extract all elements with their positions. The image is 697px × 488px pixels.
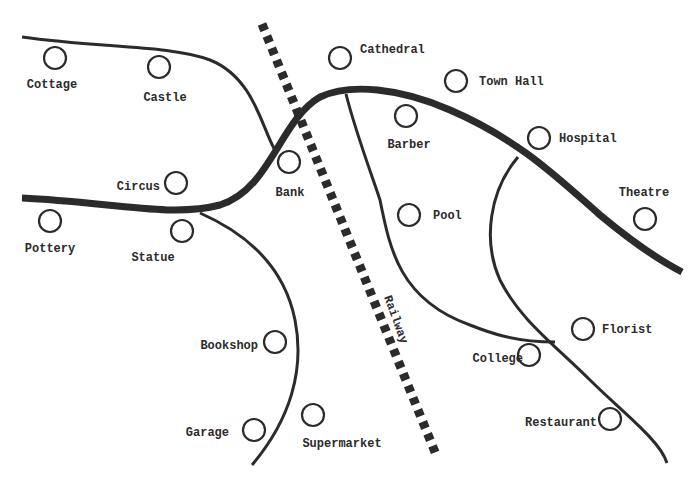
roads xyxy=(22,37,682,465)
place-label: Pottery xyxy=(25,242,75,256)
place-garage[interactable]: Garage xyxy=(186,419,265,441)
place-label: Pool xyxy=(433,209,462,223)
place-cottage[interactable]: Cottage xyxy=(27,47,77,92)
place-marker-icon[interactable] xyxy=(39,210,61,232)
place-marker-icon[interactable] xyxy=(165,172,187,194)
place-label: Cathedral xyxy=(360,43,425,57)
place-label: Town Hall xyxy=(479,75,544,89)
place-marker-icon[interactable] xyxy=(398,204,420,226)
place-theatre[interactable]: Theatre xyxy=(619,186,669,230)
place-label: Hospital xyxy=(559,132,617,146)
place-bank[interactable]: Bank xyxy=(276,151,305,200)
place-barber[interactable]: Barber xyxy=(387,105,430,152)
place-marker-icon[interactable] xyxy=(264,331,286,353)
place-circus[interactable]: Circus xyxy=(117,172,187,194)
place-marker-icon[interactable] xyxy=(572,318,594,340)
place-label: Barber xyxy=(387,138,430,152)
place-label: Florist xyxy=(602,323,652,337)
place-castle[interactable]: Castle xyxy=(143,56,186,105)
place-marker-icon[interactable] xyxy=(171,220,193,242)
place-marker-icon[interactable] xyxy=(243,419,265,441)
place-marker-icon[interactable] xyxy=(634,208,656,230)
place-label: Circus xyxy=(117,180,160,194)
place-bookshop[interactable]: Bookshop xyxy=(200,331,286,353)
place-label: Statue xyxy=(131,251,174,265)
place-marker-icon[interactable] xyxy=(278,151,300,173)
place-label: Cottage xyxy=(27,78,77,92)
place-cathedral[interactable]: Cathedral xyxy=(329,43,425,69)
place-marker-icon[interactable] xyxy=(528,127,550,149)
place-marker-icon[interactable] xyxy=(599,408,621,430)
place-florist[interactable]: Florist xyxy=(572,318,652,340)
place-supermarket[interactable]: Supermarket xyxy=(302,404,382,451)
railway-label: Railway xyxy=(380,294,410,346)
place-label: College xyxy=(473,352,523,366)
place-label: Bank xyxy=(276,186,305,200)
place-marker-icon[interactable] xyxy=(44,47,66,69)
place-label: Restaurant xyxy=(525,416,597,430)
place-marker-icon[interactable] xyxy=(302,404,324,426)
place-statue[interactable]: Statue xyxy=(131,220,193,265)
place-label: Bookshop xyxy=(200,339,258,353)
place-marker-icon[interactable] xyxy=(395,105,417,127)
place-label: Castle xyxy=(143,91,186,105)
place-hospital[interactable]: Hospital xyxy=(528,127,617,149)
place-marker-icon[interactable] xyxy=(329,47,351,69)
places: CottageCastleCathedralTown HallBarberHos… xyxy=(25,43,669,451)
place-label: Supermarket xyxy=(302,437,381,451)
place-college[interactable]: College xyxy=(473,344,540,366)
place-pool[interactable]: Pool xyxy=(398,204,462,226)
place-marker-icon[interactable] xyxy=(148,56,170,78)
place-restaurant[interactable]: Restaurant xyxy=(525,408,621,430)
place-label: Garage xyxy=(186,426,229,440)
place-label: Theatre xyxy=(619,186,669,200)
place-town-hall[interactable]: Town Hall xyxy=(445,70,544,92)
town-map: Railway CottageCastleCathedralTown HallB… xyxy=(0,0,697,488)
place-marker-icon[interactable] xyxy=(445,70,467,92)
place-pottery[interactable]: Pottery xyxy=(25,210,75,256)
